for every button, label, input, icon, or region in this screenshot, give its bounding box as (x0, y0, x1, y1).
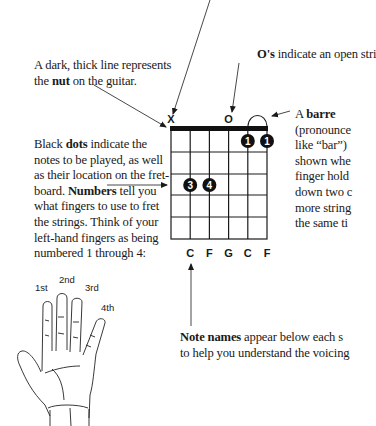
arrow-to-x-marker (173, 0, 210, 114)
finger-dot: 3 (183, 178, 197, 192)
finger-dot: 1 (260, 134, 274, 148)
arrow-to-o-marker (232, 63, 239, 112)
svg-text:3: 3 (187, 180, 193, 191)
note-name: C (244, 247, 252, 259)
pointer-arrows (94, 0, 290, 326)
nut (170, 126, 268, 131)
finger-label: 4th (101, 302, 114, 313)
finger-label: 3rd (85, 282, 99, 293)
open-string-marker: O (224, 113, 233, 125)
note-names: C F G C F (186, 247, 270, 259)
arrow-to-nut (94, 85, 166, 127)
muted-string-marker: X (167, 113, 175, 125)
svg-text:4: 4 (207, 180, 213, 191)
hand-illustration (18, 294, 105, 426)
note-name: G (224, 247, 233, 259)
svg-text:1: 1 (245, 136, 251, 147)
note-name: F (206, 247, 213, 259)
barre-arc (248, 116, 267, 127)
finger-dot: 1 (241, 134, 255, 148)
svg-text:1: 1 (264, 136, 270, 147)
finger-dot: 4 (202, 178, 216, 192)
finger-label: 1st (35, 282, 48, 293)
note-name: C (186, 247, 194, 259)
arrow-to-barre (272, 111, 290, 116)
note-name: F (264, 247, 271, 259)
finger-label: 2nd (59, 274, 75, 285)
